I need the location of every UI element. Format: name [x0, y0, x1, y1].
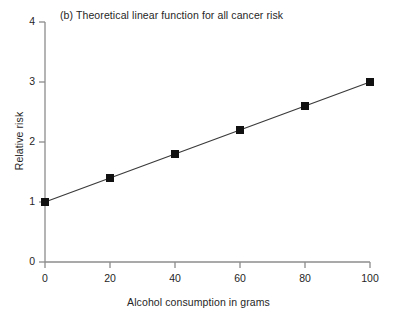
- y-tick-label: 3: [13, 75, 35, 87]
- x-tick-label: 60: [223, 272, 257, 284]
- y-tick-label: 1: [13, 195, 35, 207]
- data-point-marker: [171, 150, 179, 158]
- data-point-marker: [41, 198, 49, 206]
- data-point-marker: [106, 174, 114, 182]
- y-tick-label: 0: [13, 255, 35, 267]
- y-tick-label: 2: [13, 135, 35, 147]
- x-tick-label: 20: [93, 272, 127, 284]
- x-tick-label: 0: [28, 272, 62, 284]
- chart-figure: (b) Theoretical linear function for all …: [0, 0, 397, 319]
- data-point-marker: [301, 102, 309, 110]
- y-ticks-group: [39, 22, 45, 262]
- x-ticks-group: [45, 262, 370, 268]
- x-tick-label: 100: [353, 272, 387, 284]
- x-tick-label: 40: [158, 272, 192, 284]
- data-line-series: [45, 82, 370, 202]
- data-point-marker: [236, 126, 244, 134]
- y-tick-label: 4: [13, 15, 35, 27]
- x-tick-label: 80: [288, 272, 322, 284]
- data-point-marker: [366, 78, 374, 86]
